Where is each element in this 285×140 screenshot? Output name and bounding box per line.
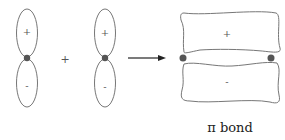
pi-bond-caption: π bond — [207, 120, 253, 135]
orbital-1-plus-sign: + — [23, 27, 31, 37]
pi-bond-minus-sign: - — [225, 77, 228, 87]
pi-bond-plus-sign: + — [223, 29, 231, 39]
pi-bond-orbital — [180, 12, 281, 103]
orbital-1-nucleus — [24, 55, 30, 61]
pi-bond-nucleus-left — [180, 55, 187, 62]
orbital-2-nucleus — [102, 55, 108, 61]
orbital-2-minus-sign: - — [103, 82, 106, 92]
orbital-1-minus-sign: - — [25, 81, 28, 91]
orbital-2-plus-sign: + — [101, 28, 109, 38]
p-orbital-2 — [95, 9, 116, 107]
reaction-arrow — [128, 55, 166, 61]
pi-bond-nucleus-right — [268, 55, 275, 62]
p-orbital-1 — [17, 9, 38, 107]
plus-operator: + — [60, 54, 69, 65]
pi-bond-lower-lobe — [181, 62, 279, 102]
